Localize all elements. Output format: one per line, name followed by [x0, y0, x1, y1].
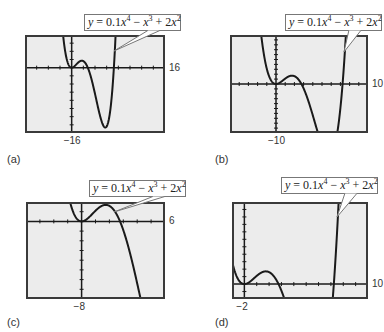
calculator-screen [26, 202, 165, 299]
ymin-label: −8 [74, 302, 85, 312]
plot-area [25, 35, 165, 133]
ymin-label: −10 [268, 136, 285, 146]
panel-label-a: (a) [7, 153, 20, 165]
plot-area [230, 35, 368, 133]
ymin-label: −2 [236, 302, 247, 312]
ymin-label: −16 [64, 136, 81, 146]
xmax-label: 10 [372, 79, 383, 89]
calculator-screen [230, 35, 368, 133]
xmax-label: 10 [372, 279, 383, 289]
panel-label-d: (d) [215, 316, 228, 328]
equation-label: y = 0.1x4 − x3 + 2x2 [84, 14, 181, 31]
calculator-screen [232, 202, 368, 299]
xmax-label: 16 [169, 63, 180, 73]
xmax-label: 6 [169, 216, 175, 226]
function-curve [26, 152, 165, 332]
calculator-screen [25, 35, 165, 133]
equation-label: y = 0.1x4 − x3 + 2x2 [285, 14, 382, 31]
panel-label-b: (b) [215, 153, 228, 165]
equation-label: y = 0.1x4 − x3 + 2x2 [281, 177, 378, 194]
panel-label-c: (c) [7, 316, 20, 328]
plot-area [26, 202, 165, 299]
equation-label: y = 0.1x4 − x3 + 2x2 [89, 180, 186, 197]
plot-area [232, 202, 368, 299]
